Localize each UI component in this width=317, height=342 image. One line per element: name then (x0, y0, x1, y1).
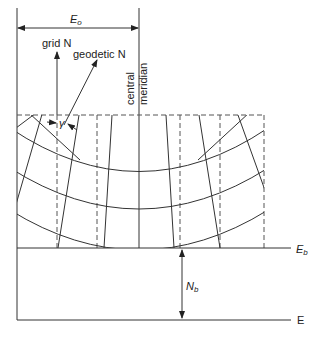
meridian-line (199, 115, 220, 248)
geodetic-north-label: geodetic N (73, 48, 126, 60)
false-easting-label: Eo (70, 13, 82, 27)
grid-north-label: grid N (42, 37, 71, 49)
central-meridian-label: central meridian (124, 63, 149, 105)
convergence-arrow-left (47, 122, 56, 123)
meridian-line (0, 90, 49, 260)
convergence-arrow-right (68, 124, 77, 130)
map-projection-diagram: Eo grid N geodetic N central meridian γ (0, 0, 317, 342)
meridian-line (58, 115, 79, 248)
svg-text:central: central (124, 72, 136, 105)
meridian-line (166, 115, 174, 248)
svg-text:meridian: meridian (137, 63, 149, 105)
easting-axis-label: E (297, 314, 304, 326)
northing-base-label: Nb (186, 280, 199, 294)
meridian-line (104, 115, 112, 248)
easting-base-label: Eb (296, 243, 308, 257)
